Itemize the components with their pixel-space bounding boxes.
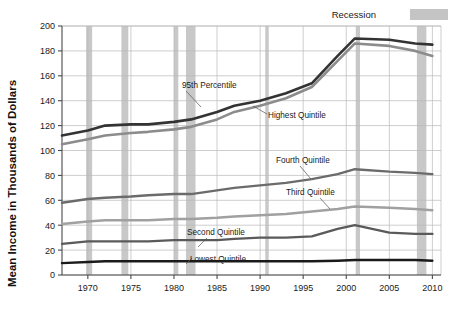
y-axis-title: Mean Income in Thousands of Dollars: [6, 80, 18, 287]
y-tick-label: 140: [40, 96, 55, 106]
series-label-highest-quintile: Highest Quintile: [268, 111, 326, 120]
x-tick-label: 1990: [250, 283, 270, 293]
y-tick-label: 160: [40, 71, 55, 81]
x-tick-label: 1970: [78, 283, 98, 293]
x-tick-label: 2000: [336, 283, 356, 293]
income-quintiles-chart: 020406080100120140160180200 197019751980…: [0, 0, 457, 309]
legend-recession-swatch: [410, 9, 448, 20]
legend-recession-label: Recession: [332, 9, 376, 20]
x-tick-label: 1975: [121, 283, 141, 293]
series-label-third-quintile: Third Quintile: [286, 188, 335, 197]
series-label-fourth-quintile: Fourth Quintile: [276, 156, 330, 165]
x-tick-label: 1995: [293, 283, 313, 293]
y-tick-label: 20: [45, 246, 55, 256]
y-tick-label: 200: [40, 21, 55, 31]
chart-canvas: 020406080100120140160180200 197019751980…: [0, 0, 457, 309]
x-tick-label: 2010: [422, 283, 442, 293]
y-tick-label: 100: [40, 146, 55, 156]
series-label-95th-percentile: 95th Percentile: [182, 81, 237, 90]
y-tick-label: 60: [45, 196, 55, 206]
x-tick-label: 2005: [379, 283, 399, 293]
x-tick-label: 1980: [164, 283, 184, 293]
series-label-second-quintile: Second Quintile: [187, 228, 245, 237]
y-tick-label: 120: [40, 121, 55, 131]
y-tick-label: 80: [45, 171, 55, 181]
y-tick-label: 40: [45, 221, 55, 231]
y-tick-label: 0: [50, 270, 55, 280]
y-tick-label: 180: [40, 46, 55, 56]
series-label-lowest-quintile: Lowest Quintile: [190, 255, 246, 264]
x-tick-label: 1985: [207, 283, 227, 293]
